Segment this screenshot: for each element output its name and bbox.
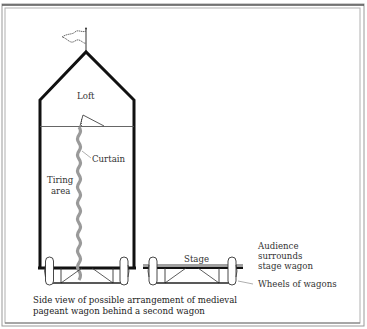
label-tiring-area-1: Tiring bbox=[47, 175, 74, 185]
curtain bbox=[78, 127, 81, 280]
label-wheels: Wheels of wagons bbox=[258, 279, 337, 289]
label-tiring-area-2: area bbox=[51, 186, 70, 196]
label-audience-2: surrounds bbox=[258, 251, 302, 261]
label-loft: Loft bbox=[77, 91, 95, 101]
pageant-wagon-diagram: Loft Curtain Tiring area Stage Audience … bbox=[0, 0, 367, 329]
wheel bbox=[46, 257, 54, 285]
label-stage: Stage bbox=[184, 254, 209, 264]
wheel bbox=[120, 257, 128, 285]
wheel bbox=[149, 257, 157, 285]
label-curtain: Curtain bbox=[92, 154, 126, 164]
label-audience-1: Audience bbox=[257, 241, 299, 251]
wheel bbox=[228, 257, 236, 285]
caption-line-1: Side view of possible arrangement of med… bbox=[33, 295, 237, 305]
caption-line-2: pageant wagon behind a second wagon bbox=[33, 306, 205, 316]
flag-icon bbox=[62, 28, 87, 53]
figure-frame bbox=[2, 4, 364, 326]
label-audience-3: stage wagon bbox=[258, 261, 313, 271]
pageant-wagon bbox=[38, 52, 136, 285]
trapdoor bbox=[80, 115, 104, 126]
